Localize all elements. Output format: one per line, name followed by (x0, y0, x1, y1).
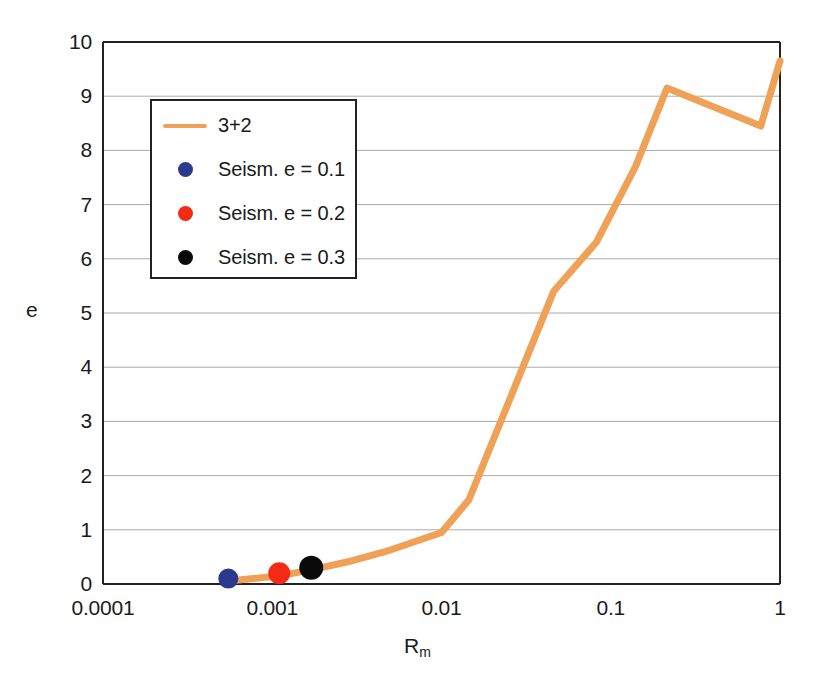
x-tick-label: 0.01 (421, 596, 461, 620)
legend-entry: Seism. e = 0.2 (152, 191, 355, 236)
legend-key (152, 250, 218, 265)
y-tick-label: 10 (40, 30, 92, 54)
legend-label: Seism. e = 0.3 (218, 246, 345, 269)
plot-canvas (0, 0, 820, 684)
x-tick-label: 0.0001 (71, 596, 134, 620)
legend-entry: Seism. e = 0.3 (152, 235, 355, 280)
legend-entry: Seism. e = 0.1 (152, 147, 355, 192)
legend-dot-swatch (178, 162, 193, 177)
x-tick-label: 0.1 (596, 596, 625, 620)
legend-line-swatch (163, 124, 207, 128)
legend-dot-swatch (178, 206, 193, 221)
x-axis-title-subscript: m (419, 644, 431, 660)
y-tick-label: 7 (40, 193, 92, 217)
legend-key (152, 206, 218, 221)
y-tick-label: 1 (40, 518, 92, 542)
y-tick-label: 2 (40, 464, 92, 488)
x-tick-label: 0.001 (246, 596, 298, 620)
y-tick-label: 6 (40, 247, 92, 271)
y-tick-label: 5 (40, 301, 92, 325)
y-tick-label: 8 (40, 138, 92, 162)
legend-key (152, 124, 218, 128)
legend-entry: 3+2 (152, 103, 355, 148)
series-marker-2 (268, 562, 290, 584)
y-tick-label: 9 (40, 84, 92, 108)
legend-key (152, 162, 218, 177)
legend-label: Seism. e = 0.1 (218, 158, 345, 181)
y-tick-label: 0 (40, 572, 92, 596)
legend-dot-swatch (178, 250, 193, 265)
x-tick-label: 1 (774, 596, 785, 620)
x-axis-title: Rm (404, 634, 431, 660)
legend-label: 3+2 (218, 114, 252, 137)
legend-label: Seism. e = 0.2 (218, 202, 345, 225)
chart-legend: 3+2Seism. e = 0.1Seism. e = 0.2Seism. e … (150, 99, 357, 279)
y-tick-label: 3 (40, 409, 92, 433)
chart-figure: 012345678910 0.00010.0010.010.11 e Rm 3+… (0, 0, 820, 684)
y-tick-label: 4 (40, 355, 92, 379)
series-marker-1 (218, 569, 238, 589)
series-marker-3 (299, 556, 323, 580)
y-axis-title: e (26, 298, 38, 322)
x-axis-title-base: R (404, 634, 419, 657)
